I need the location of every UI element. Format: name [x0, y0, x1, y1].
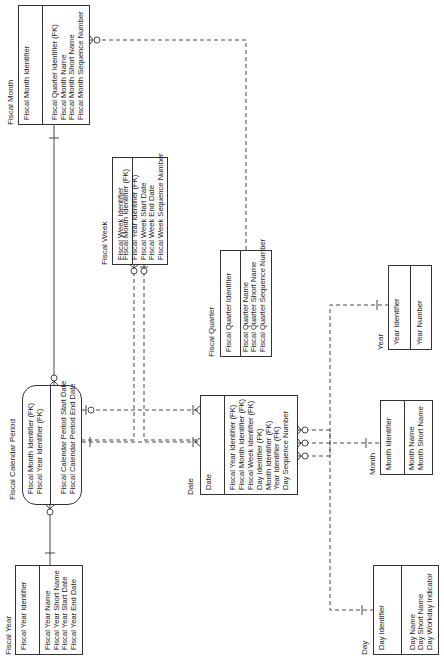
- entity-title: Fiscal Calendar Period: [8, 419, 17, 500]
- attribute-area: Month Name Month Short Name: [405, 401, 432, 474]
- entity-title: Month: [368, 453, 377, 475]
- rel-fiscal-calendar-period-to-date-2: [82, 405, 200, 415]
- entity-title: Fiscal Year: [4, 616, 13, 655]
- attribute: Fiscal Calendar Period End Date: [69, 390, 78, 494]
- key-area: Fiscal Month Identifier (FK) Fiscal Year…: [23, 386, 51, 504]
- key-attribute: Fiscal Month Identifier: [23, 10, 32, 120]
- attribute: Fiscal Week Sequence Number: [157, 162, 166, 260]
- key-attribute: Fiscal Year Identifier: [20, 570, 29, 650]
- rel-year-to-date: [298, 300, 388, 460]
- entity-box: Fiscal Quarter Identifier Fiscal Quarter…: [220, 250, 272, 357]
- key-area: Year Identifier: [389, 266, 411, 349]
- attribute-area: Fiscal Quarter Name Fiscal Quarter Short…: [239, 251, 271, 356]
- attribute-area: Fiscal Quarter Identifier (FK) Fiscal Mo…: [48, 6, 89, 124]
- entity-title: Day: [360, 641, 369, 655]
- key-area: Fiscal Year Identifier: [16, 566, 40, 654]
- attribute: Fiscal Month Sequence Number: [77, 10, 86, 120]
- attribute-area: Day Name Day Short Name Day Workday Indi…: [406, 566, 438, 654]
- entity-title: Fiscal Week: [100, 222, 109, 265]
- entity-box: Fiscal Month Identifier Fiscal Quarter I…: [18, 5, 90, 125]
- entity-title: Fiscal Month: [6, 80, 15, 125]
- key-attribute: Month Identifier: [385, 405, 394, 470]
- entity-box: Month Identifier Month Name Month Short …: [380, 400, 433, 475]
- entity-box: Day Identifier Day Name Day Short Name D…: [373, 565, 439, 655]
- key-attribute: Fiscal Year Identifier (FK): [36, 390, 45, 494]
- rel-fiscal-year-to-fiscal-calendar-period: [45, 505, 55, 565]
- attribute: Year Number: [416, 270, 425, 345]
- attribute-area: Fiscal Calendar Period Start Date Fiscal…: [57, 386, 81, 504]
- key-attribute: Year Identifier: [393, 270, 402, 345]
- er-diagram-canvas: Fiscal Year Fiscal Year Identifier Fisca…: [0, 0, 444, 660]
- rel-fiscal-month-to-fiscal-calendar-period: [49, 125, 59, 385]
- attribute-area: Year Number: [413, 266, 431, 349]
- attribute: Day Sequence Number: [282, 400, 291, 490]
- entity-box: Year Identifier Year Number: [388, 265, 432, 350]
- key-area: Fiscal Month Identifier: [19, 6, 43, 124]
- attribute-area: Fiscal Year Name Fiscal Year Short Name …: [41, 566, 82, 654]
- rel-month-to-date: [298, 438, 380, 448]
- rel-fiscal-calendar-period-to-date: [82, 437, 200, 447]
- key-attribute: Fiscal Quarter Identifier: [225, 255, 234, 352]
- entity-box: Fiscal Week Identifier Fiscal Month Iden…: [112, 157, 168, 265]
- entity-title: Date: [186, 478, 195, 495]
- attribute-area: Fiscal Year Identifier (FK) Fiscal Month…: [226, 396, 297, 494]
- attribute: Day Workday Indicator: [426, 570, 435, 650]
- key-area: Month Identifier: [381, 401, 405, 474]
- key-area: Day Identifier: [374, 566, 402, 654]
- attribute: Month Short Name: [417, 405, 426, 470]
- key-attribute: Day Identifier: [378, 570, 387, 650]
- attribute: Fiscal Year End Date: [70, 570, 79, 650]
- entity-title: Year: [376, 334, 385, 350]
- entity-box: Date Fiscal Year Identifier (FK) Fiscal …: [200, 395, 298, 495]
- entity-title: Fiscal Quarter: [207, 307, 216, 357]
- key-attribute: Date: [205, 400, 214, 490]
- attribute-area: Fiscal Month Identifier (FK) Fiscal Year…: [121, 158, 167, 264]
- key-area: Date: [201, 396, 225, 494]
- entity-box: Fiscal Year Identifier Fiscal Year Name …: [15, 565, 83, 655]
- attribute: Fiscal Quarter Sequence Number: [259, 255, 268, 352]
- rel-to-fiscal-week: [82, 265, 200, 440]
- entity-box: Fiscal Month Identifier (FK) Fiscal Year…: [22, 385, 82, 505]
- rel-day-to-date: [298, 426, 373, 615]
